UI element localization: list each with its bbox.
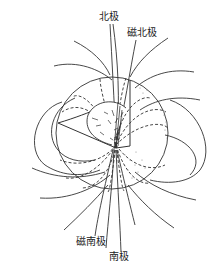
earth-magnetic-field-diagram	[0, 0, 221, 278]
label-magnetic-north: 磁北极	[127, 28, 157, 38]
label-geographic-south: 南极	[109, 252, 129, 262]
field-lines-right	[128, 38, 206, 228]
label-magnetic-south: 磁南极	[76, 237, 106, 247]
inner-core	[87, 102, 126, 150]
stipple-shading	[120, 88, 168, 189]
label-geographic-north: 北极	[99, 12, 119, 22]
